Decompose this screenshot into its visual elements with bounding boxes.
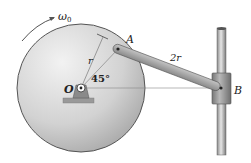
pin-a	[116, 47, 119, 50]
omega-label: ω0	[58, 10, 71, 24]
mechanism-diagram: ω0 r A O 45° 2r B	[0, 0, 251, 163]
pin-b	[219, 86, 222, 89]
point-b-label: B	[233, 84, 242, 97]
pivot-base	[63, 98, 94, 103]
pivot-o-center	[80, 87, 83, 90]
point-o-label: O	[64, 83, 74, 96]
link-length-label: 2r	[169, 52, 182, 63]
angle-label: 45°	[91, 73, 110, 84]
rod-top-end	[217, 27, 226, 30]
point-a-label: A	[125, 33, 134, 46]
